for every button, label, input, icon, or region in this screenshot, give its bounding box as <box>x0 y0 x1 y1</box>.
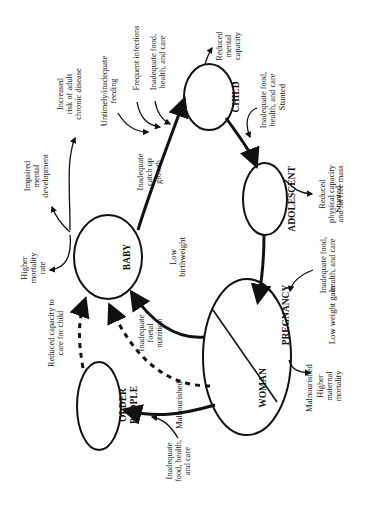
inadequate-catchup-growth-label: Inadequate catch up growth <box>136 147 164 197</box>
reduced-capacity-care-label: Reduced capacity to care for child <box>47 293 65 373</box>
woman-subtitle: Malnourished <box>305 358 315 418</box>
adolescent-title: ADOLESCENT <box>287 166 298 232</box>
inadequate-adolescent-label: Inadequate food, health, and care <box>259 65 277 135</box>
older-subtitle: Malnourished <box>175 377 185 433</box>
older-node-label: OLDER PEOPLE Malnourished <box>82 377 203 433</box>
older-title: OLDER PEOPLE <box>118 377 139 433</box>
inadequate-to-child-arrow <box>155 101 170 124</box>
pregnancy-title: PREGNANCY <box>281 275 292 355</box>
inadequate-foetal-nutrition-label: Inadequate foetal nutrition <box>137 308 165 358</box>
inadequate-child-label: Inadequate food, health, and care <box>149 27 167 97</box>
pregnancy-node-label: PREGNANCY Low weight gain <box>245 275 355 355</box>
feeding-to-child-arrow <box>118 113 148 132</box>
frequent-infections-label: Frequent infections <box>132 18 141 98</box>
baby-to-mental-development-arrow <box>52 207 70 232</box>
baby-to-mortality-arrow <box>50 235 70 270</box>
child-to-mental-capacity-arrow <box>205 48 212 64</box>
reduced-physical-capacity-label: Reduced physical capacity and fat free m… <box>318 154 346 234</box>
impaired-mental-development-label: Impaired mental development <box>23 148 51 204</box>
baby-subtitle: Low birthweight <box>169 224 188 290</box>
higher-mortality-rate-label: Higher mortality rate <box>20 246 48 290</box>
baby-to-chronic-disease-arrow <box>69 138 75 230</box>
baby-node-label: BABY Low birthweight <box>86 224 206 290</box>
baby-title: BABY <box>122 224 133 290</box>
inadequate-pregnancy-label: Inadequate food, health, and care <box>319 230 337 300</box>
higher-maternal-mortality-label: Higher maternal mortality <box>316 364 344 408</box>
older-to-baby-dashed-arrow <box>79 300 85 368</box>
inadequate-older-label: Inadequate food, health, and care <box>165 430 193 492</box>
child-node-label: CHILD Stunted <box>195 72 305 122</box>
increased-risk-label: Increased risk of adult chronic disease <box>56 54 84 134</box>
child-subtitle: Stunted <box>278 72 288 122</box>
reduced-mental-capacity-label: Reduced mental capacity <box>215 28 243 64</box>
untimely-feeding-label: Untimely/inadequate feeding <box>100 49 118 133</box>
child-title: CHILD <box>231 72 242 122</box>
child-to-adolescent-arrow <box>226 118 256 165</box>
woman-title: WOMAN <box>258 358 269 418</box>
